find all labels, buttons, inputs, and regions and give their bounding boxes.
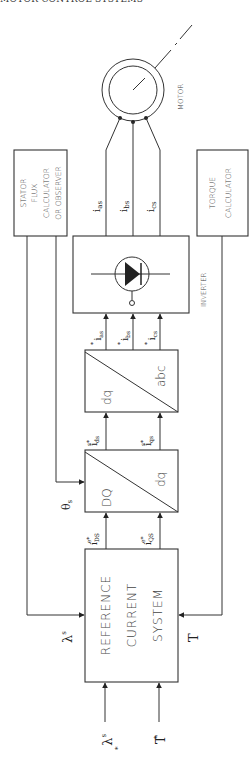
svg-text:ibs*: ibs* [116,331,131,345]
svg-text:iDSe*: iDSe* [85,533,100,545]
svg-text:ibs: ibs [118,200,131,212]
svg-text:iQSe*: iQSe* [139,533,154,545]
svg-text:FLUX: FLUX [30,184,39,203]
svg-text:dq: dq [154,472,168,487]
svg-text:OR OBSERVER: OR OBSERVER [54,166,63,220]
svg-text:T*: T* [153,735,168,744]
shaft-dash [175,43,177,45]
svg-text:λs*: λs* [100,734,122,750]
block-diagram: MOTOR ias ibs ics STATOR FLUX CALCULATOR… [0,0,249,765]
rotor-line [133,78,145,90]
svg-text:T: T [186,633,201,642]
svg-text:CALCULATOR: CALCULATOR [42,168,51,218]
svg-text:TORQUE: TORQUE [208,177,217,209]
svg-text:ias*: ias* [89,331,104,345]
motor: MOTOR [102,25,192,124]
inverter-label: INVERTER [200,272,208,307]
svg-text:CURRENT: CURRENT [125,583,139,648]
reference-current-system-block: REFERENCE CURRENT SYSTEM [85,549,178,682]
svg-text:ics*: ics* [143,331,158,345]
sync-ref-labels: iDSe* iQSe* [85,533,154,545]
motor-current-lines [106,118,160,236]
svg-text:ias: ias [91,201,104,212]
inverter-block: INVERTER [73,236,208,313]
svg-text:SYSTEM: SYSTEM [151,588,165,642]
svg-text:CALCULATOR: CALCULATOR [224,168,233,218]
svg-text:abc: abc [154,365,168,387]
svg-text:REFERENCE: REFERENCE [99,575,113,655]
stator-ref-labels: idss* iqss* [85,436,155,446]
svg-text:STATOR: STATOR [19,178,28,207]
command-inputs: λs* T* [100,683,168,750]
stator-flux-calculator-block: STATOR FLUX CALCULATOR OR OBSERVER [14,150,67,236]
svg-text:iqss*: iqss* [139,436,155,446]
svg-text:idss*: idss* [85,436,100,446]
torque-calculator-block: TORQUE CALCULATOR [197,150,248,236]
svg-text:DQ: DQ [100,488,114,507]
svg-text:ics: ics [145,201,158,212]
phase-ref-labels: ias* ibs* ics* [89,331,158,345]
motor-label: MOTOR [177,84,185,110]
dq-to-abc-transform-block: dq abc [85,350,178,412]
svg-text:λs: λs [60,631,75,643]
svg-text:dq: dq [100,390,114,405]
shaft-line-end [180,25,192,39]
shaft-line [155,50,171,68]
svg-text:θs: θs [60,499,74,510]
DQ-to-dq-transform-block: DQ dq [85,450,178,512]
motor-current-labels: ias ibs ics [91,200,158,212]
